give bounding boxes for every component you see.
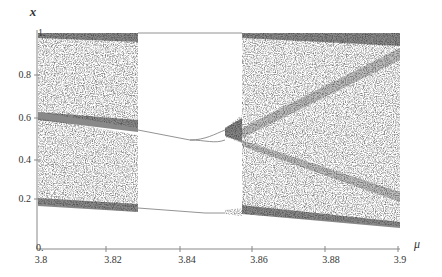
y-tick-label: 0.2 [19, 193, 32, 204]
y-tick-label: 1. [38, 27, 46, 38]
y-tick-label: 0. [36, 242, 44, 253]
y-tick-label: 0.4 [19, 154, 32, 165]
y-axis-label: x [29, 4, 37, 19]
period-3-orbit [138, 33, 242, 213]
x-tick-label: 3.88 [322, 254, 340, 265]
y-tick-label: 0.8 [19, 69, 32, 80]
y-tick-label: 0.6 [19, 112, 32, 123]
x-axis-label: μ [413, 237, 420, 251]
x-tick-label: 3.82 [104, 254, 122, 265]
chaotic-region [38, 33, 400, 226]
bifurcation-chart: x μ 1. 0.8 0.6 0.4 0.2 0. 3.8 3.82 3.84 … [0, 0, 442, 277]
x-tick-label: 3.8 [35, 254, 48, 265]
x-tick-label: 3.9 [394, 254, 407, 265]
x-tick-label: 3.86 [250, 254, 268, 265]
x-tick-label: 3.84 [178, 254, 196, 265]
